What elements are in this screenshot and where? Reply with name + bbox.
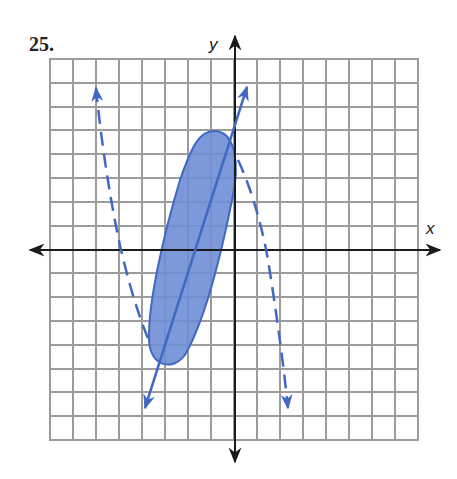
- y-axis-label: y: [208, 35, 219, 54]
- coordinate-graph: y x: [0, 0, 457, 479]
- solid-line: [145, 87, 247, 408]
- x-axis-label: x: [425, 219, 435, 238]
